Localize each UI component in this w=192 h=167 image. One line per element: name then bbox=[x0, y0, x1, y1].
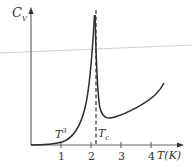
x-tick-label-3: 3 bbox=[118, 151, 125, 162]
lambda-transition-plot bbox=[0, 0, 192, 167]
cv-curve-below-tc bbox=[31, 15, 95, 145]
t3-exponent: 3 bbox=[62, 127, 66, 135]
y-axis-subscript: V bbox=[22, 15, 27, 23]
x-tick-label-4: 4 bbox=[148, 151, 155, 162]
t3-annotation: T3 bbox=[55, 128, 67, 140]
y-axis-symbol: C bbox=[12, 5, 22, 20]
tc-subscript: c bbox=[105, 134, 109, 142]
x-axis-arrow-icon bbox=[177, 143, 184, 148]
y-axis-label: CV bbox=[12, 6, 27, 23]
cv-curve-above-tc bbox=[95, 15, 164, 118]
x-tick-label-1: 1 bbox=[58, 151, 65, 162]
x-axis-label: T(K) bbox=[157, 150, 181, 161]
y-axis-arrow-icon bbox=[29, 7, 34, 14]
tc-annotation: Tc bbox=[98, 128, 109, 142]
x-tick-label-2: 2 bbox=[88, 151, 95, 162]
